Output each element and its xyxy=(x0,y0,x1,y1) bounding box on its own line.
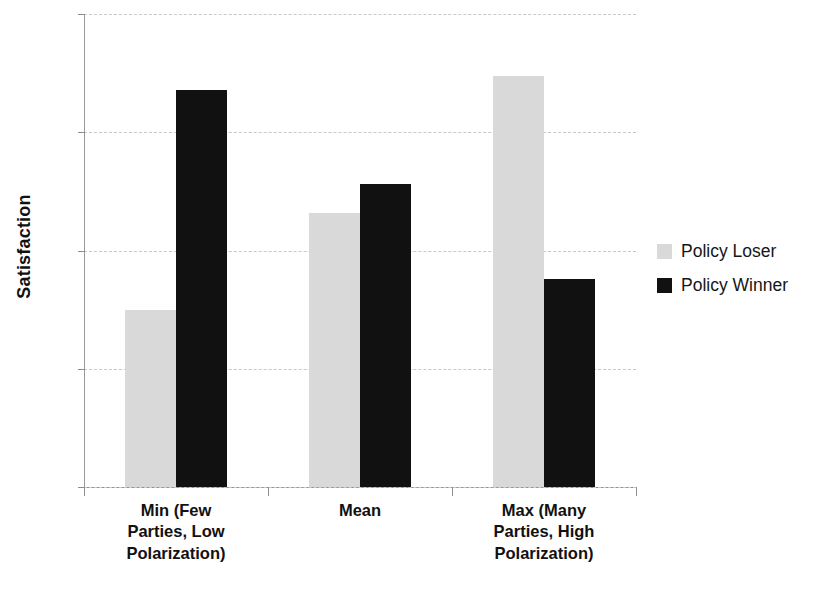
y-tick-mark xyxy=(78,369,85,370)
x-category-label: Min (FewParties, LowPolarization) xyxy=(84,500,268,564)
y-tick-mark xyxy=(78,132,85,133)
y-tick-mark xyxy=(78,251,85,252)
bar-policy-loser xyxy=(493,76,544,488)
legend-entry: Policy Loser xyxy=(657,241,788,262)
bar-policy-winner xyxy=(176,90,227,487)
x-category-label-line: Max (Many xyxy=(452,500,636,521)
x-category-label-line: Parties, Low xyxy=(84,521,268,542)
legend-swatch-policy-winner xyxy=(657,278,672,293)
legend-swatch-policy-loser xyxy=(657,244,672,259)
gridline-2 xyxy=(84,487,636,488)
bar-policy-loser xyxy=(125,310,176,487)
legend-label: Policy Loser xyxy=(681,241,776,262)
legend-label: Policy Winner xyxy=(681,275,788,296)
plot-area xyxy=(84,14,636,487)
legend: Policy LoserPolicy Winner xyxy=(657,241,788,296)
y-tick-mark xyxy=(78,14,85,15)
x-category-label-line: Mean xyxy=(268,500,452,521)
x-axis-separator xyxy=(268,487,269,496)
x-category-label-line: Polarization) xyxy=(84,543,268,564)
x-category-label: Mean xyxy=(268,500,452,521)
bar-policy-winner xyxy=(544,279,595,487)
x-category-label-line: Parties, High xyxy=(452,521,636,542)
x-axis-separator xyxy=(636,487,637,496)
bar-chart-figure: Satisfaction 22.252.52.753 Min (FewParti… xyxy=(0,0,821,597)
legend-entry: Policy Winner xyxy=(657,275,788,296)
x-axis-separator xyxy=(452,487,453,496)
y-axis-title: Satisfaction xyxy=(14,137,35,357)
x-category-label-line: Polarization) xyxy=(452,543,636,564)
gridline-3 xyxy=(84,14,636,15)
x-axis-separator xyxy=(84,487,85,496)
x-category-label-line: Min (Few xyxy=(84,500,268,521)
gridline-2.75 xyxy=(84,132,636,133)
bar-policy-winner xyxy=(360,184,411,487)
x-category-label: Max (ManyParties, HighPolarization) xyxy=(452,500,636,564)
bar-policy-loser xyxy=(309,213,360,487)
